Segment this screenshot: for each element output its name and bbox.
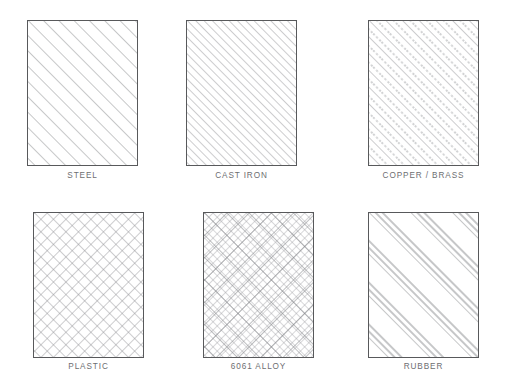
swatch-label-rubber: RUBBER: [404, 362, 444, 371]
hatch-swatch-rubber: [368, 212, 479, 358]
hatch-swatch-steel: [27, 20, 138, 166]
alternating-solid-dashed-diagonal-pattern-icon: [369, 21, 478, 165]
swatch-cell-6061-alloy: [203, 212, 314, 358]
swatch-label-copper-brass: COPPER / BRASS: [383, 171, 465, 180]
diagonal-lines-45-fine-pattern-icon: [187, 21, 296, 165]
swatch-label-cast-iron: CAST IRON: [215, 171, 268, 180]
swatch-label-6061-alloy: 6061 ALLOY: [231, 362, 286, 371]
cross-hatch-pattern-icon: [34, 213, 143, 357]
hatch-swatch-plastic: [33, 212, 144, 358]
swatch-cell-rubber: [368, 212, 479, 358]
grouped-diagonal-lines-pattern-icon: [369, 213, 478, 357]
swatch-cell-plastic: [33, 212, 144, 358]
swatch-cell-steel: [27, 20, 138, 166]
swatch-label-steel: STEEL: [67, 171, 97, 180]
hatch-swatch-cast-iron: [186, 20, 297, 166]
material-hatch-legend-sheet: STEEL CAST IRON: [0, 0, 509, 392]
swatch-label-plastic: PLASTIC: [68, 362, 108, 371]
swatch-cell-cast-iron: [186, 20, 297, 166]
diagonal-lines-45-pattern-icon: [28, 21, 137, 165]
hatch-swatch-6061-alloy: [203, 212, 314, 358]
double-cross-hatch-pattern-icon: [204, 213, 313, 357]
swatch-cell-copper-brass: [368, 20, 479, 166]
hatch-swatch-copper-brass: [368, 20, 479, 166]
